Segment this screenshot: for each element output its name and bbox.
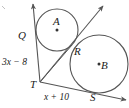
- label-center-b: B: [101, 60, 108, 71]
- scan-artifact-mark: [2, 6, 5, 9]
- label-bottom-segment-length: x + 10: [44, 93, 69, 103]
- geometry-figure: A B Q R T S 3x − 8 x + 10: [0, 0, 129, 108]
- label-point-r: R: [74, 46, 81, 57]
- label-point-s: S: [90, 92, 96, 103]
- label-center-a: A: [53, 16, 60, 27]
- label-left-segment-length: 3x − 8: [2, 58, 27, 68]
- label-point-t: T: [30, 79, 36, 90]
- ray-t-q: [33, 4, 40, 82]
- label-point-q: Q: [18, 30, 26, 41]
- center-dot-a: [56, 29, 59, 32]
